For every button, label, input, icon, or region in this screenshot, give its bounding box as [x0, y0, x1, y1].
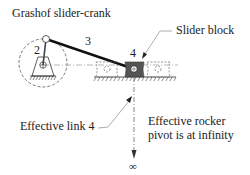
ground-hatch — [30, 76, 56, 80]
ghost-slider-right — [147, 62, 170, 77]
rocker-pivot-label-line2: pivot is at infinity — [148, 128, 234, 143]
effective-link4-leader — [98, 101, 129, 128]
ghost-slider-left — [96, 62, 118, 77]
infinity-symbol: ∞ — [129, 160, 137, 172]
slider-ground-hatch — [94, 77, 176, 81]
effective-link4-label: Effective link 4 — [20, 119, 94, 134]
slider-block-leader — [145, 31, 172, 54]
slider-pin — [131, 66, 138, 73]
link-3-label: 3 — [85, 34, 91, 49]
crank-pin — [43, 36, 50, 43]
rocker-pivot-label-line1: Effective rocker — [148, 114, 225, 129]
effective-link4-arrow-icon — [126, 96, 132, 103]
down-arrow-icon — [132, 150, 137, 159]
link-4-label: 4 — [130, 46, 136, 61]
slider-block-arrow-icon — [142, 52, 147, 59]
link-2-label: 2 — [34, 43, 40, 58]
link-2 — [43, 39, 46, 65]
diagram-title: Grashof slider-crank — [12, 6, 111, 21]
slider-block-label: Slider block — [176, 23, 234, 38]
